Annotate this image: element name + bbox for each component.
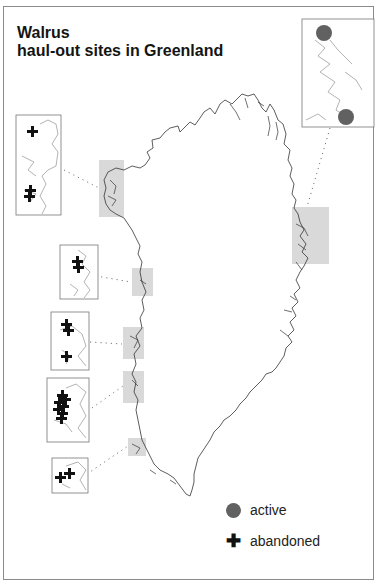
highlight-west-3 [123,371,144,403]
plus-icon: ✚ [226,534,241,549]
legend-item-abandoned: ✚ abandoned [226,531,320,551]
highlight-west-2 [123,327,144,359]
legend-item-active: active [226,500,320,520]
highlight-northeast [292,207,329,264]
highlight-northwest [99,160,124,217]
active-site-icon [338,109,354,125]
active-site-icon [316,25,332,41]
inset-northwest [16,115,61,215]
inset-west-2 [51,312,89,370]
highlight-southwest [128,438,146,456]
active-circle-icon [226,503,241,518]
greenland-map [0,0,382,588]
legend: active ✚ abandoned [226,500,320,562]
legend-label: abandoned [250,533,320,549]
legend-label: active [250,502,287,518]
inset-northeast [302,19,374,127]
